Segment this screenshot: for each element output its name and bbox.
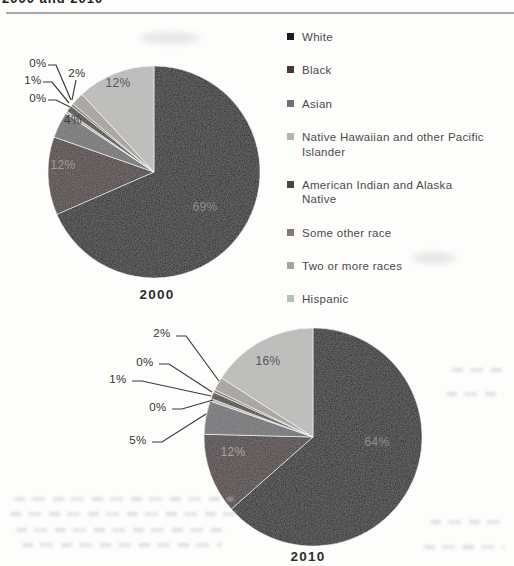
pie-callout-label: 0% [149,401,166,413]
callout-line [72,80,76,100]
legend-item-american-indian-and-alaska-native: American Indian and Alaska Native [287,178,489,207]
legend-label: Two or more races [302,259,402,273]
legend-label: Black [302,63,332,77]
callout-line [172,400,213,409]
pie-callout-label: 1% [109,373,126,385]
legend-item-white: White [287,30,489,44]
legend-swatch [287,33,294,40]
legend-label: American Indian and Alaska Native [302,178,489,207]
pie-callout-label: 1% [24,74,41,86]
pie-slice-label: 16% [255,354,280,368]
legend-swatch [287,181,294,188]
legend-item-some-other-race: Some other race [287,226,489,240]
legend-label: Native Hawaiian and other Pacific Island… [302,130,489,159]
legend-item-asian: Asian [287,97,489,111]
legend-swatch [287,229,294,236]
legend-swatch [287,295,294,302]
pie-slice-label: 4% [64,113,82,127]
pie-title-2010: 2010 [291,549,326,564]
scanned-page: 2000 and 2010 69%12%4%12%0%2%1%0%64%12%1… [0,0,514,566]
pie-callout-label: 2% [153,327,170,339]
pie-slice-label: 69% [192,200,217,214]
legend-item-hispanic: Hispanic [287,292,489,306]
pie-slice-label: 12% [105,76,130,90]
callout-line [152,414,206,442]
pie-title-2000: 2000 [140,287,175,302]
callout-line [159,364,212,392]
pie-2000 [48,66,260,278]
legend-item-black: Black [287,63,489,77]
legend-label: White [302,30,333,44]
pie-callout-label: 0% [136,356,153,368]
pie-callout-label: 0% [29,57,46,69]
legend-swatch [287,262,294,269]
legend-swatch [287,66,294,73]
legend-swatch [287,100,294,107]
pie-slice-label: 12% [50,158,75,172]
legend-swatch [287,133,294,140]
legend-item-native-hawaiian-and-other-pacific-islander: Native Hawaiian and other Pacific Island… [287,130,489,159]
legend-label: Hispanic [302,292,349,306]
pie-slice-label: 12% [220,445,245,459]
callout-line [176,336,219,381]
pie-slice-label: 64% [364,435,389,449]
legend-label: Asian [302,97,332,111]
legend-item-two-or-more-races: Two or more races [287,259,489,273]
pie-callout-label: 5% [129,434,146,446]
chart-legend: WhiteBlackAsianNative Hawaiian and other… [287,30,489,307]
pie-callout-label: 0% [29,92,46,104]
pie-callout-label: 2% [68,67,85,79]
legend-label: Some other race [302,226,392,240]
